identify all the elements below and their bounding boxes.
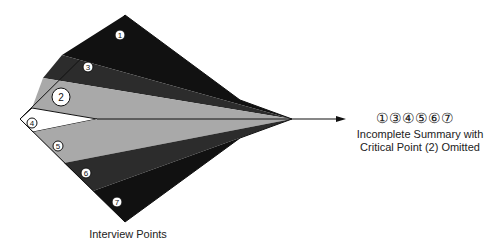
result-points: ①③④⑤⑥⑦ (376, 110, 454, 126)
interview-points-caption: Interview Points (78, 228, 178, 241)
result-caption: Incomplete Summary with Critical Point (… (350, 128, 490, 154)
result-caption-line1: Incomplete Summary with (350, 128, 490, 141)
svg-text:3: 3 (86, 63, 91, 72)
svg-text:2: 2 (58, 92, 64, 103)
svg-text:6: 6 (84, 169, 89, 178)
arrow-head-icon (336, 116, 346, 122)
result-caption-line2: Critical Point (2) Omitted (350, 141, 490, 154)
svg-text:1: 1 (118, 31, 123, 40)
svg-text:4: 4 (30, 119, 35, 128)
svg-text:7: 7 (115, 198, 120, 207)
svg-text:5: 5 (56, 142, 61, 151)
